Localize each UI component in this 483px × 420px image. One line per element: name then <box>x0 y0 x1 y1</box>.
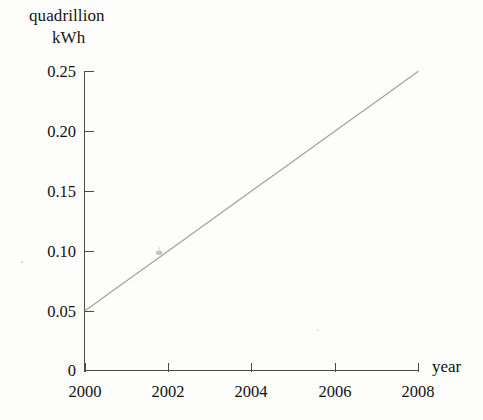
data-series-line <box>85 72 418 311</box>
scan-speck-lower <box>317 329 319 331</box>
line-marker-speck <box>156 247 162 255</box>
chart-page: quadrillion kWh 0.25 0.20 0.15 0.10 0.05… <box>0 0 483 420</box>
plot-area <box>0 0 483 420</box>
scan-speck-left <box>21 261 23 263</box>
